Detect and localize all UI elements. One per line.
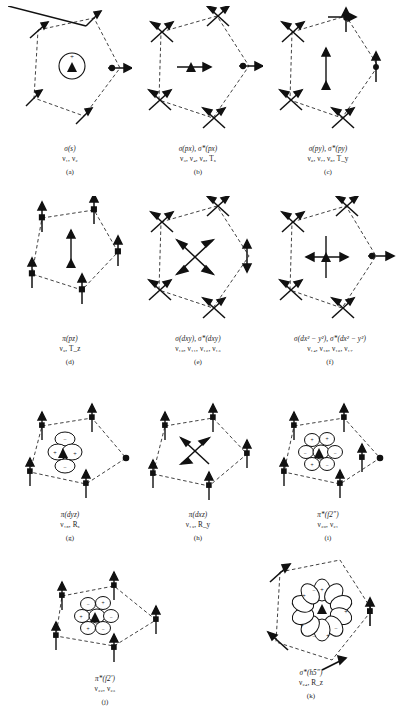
panel-f-letter: (f) xyxy=(264,357,396,367)
svg-text:−: − xyxy=(86,601,89,607)
panel-a-caption: σ(s) ν₁, ν₂ (a) xyxy=(8,144,132,177)
panel-k-modes-label: ν₂₄, R_z xyxy=(236,678,386,688)
panel-h: π(dxz) ν₁₉, R_y (h) xyxy=(133,400,263,560)
panel-g-letter: (g) xyxy=(8,533,132,543)
panel-i-letter: (i) xyxy=(264,533,392,543)
panel-b-modes-label: ν₃, ν₄, ν₅, Tₓ xyxy=(133,154,263,164)
panel-j-modes-label: ν₂₂, ν₂₃ xyxy=(30,684,180,694)
panel-d-diagram xyxy=(8,196,132,328)
panel-a-diagram: + xyxy=(8,6,132,138)
panel-b-orbital-label: σ(px), σ*(px) xyxy=(133,144,263,154)
svg-text:+: + xyxy=(310,437,313,443)
panel-a-modes-label: ν₁, ν₂ xyxy=(8,154,132,164)
panel-i-caption: π*(f2″) ν₂₀, ν₂₁ (i) xyxy=(264,510,392,543)
panel-k-diagram: + − + − + − + − + − xyxy=(236,554,386,678)
svg-text:+: + xyxy=(86,626,89,632)
panel-a: + σ(s) ν₁, ν₂ (a) xyxy=(8,6,132,186)
panel-b-letter: (b) xyxy=(133,167,263,177)
panel-i: ++ −− +− π*(f2″) ν₂₀, ν₂₁ (i) xyxy=(264,400,392,560)
panel-d: π(pz) ν₉, T_z (d) xyxy=(8,196,132,376)
panel-c-diagram xyxy=(264,6,392,138)
panel-g-modes-label: ν₁₈, Rₓ xyxy=(8,520,132,530)
panel-f: σ(dx² − y²), σ*(dx² − y²) ν₁₄, ν₁₅, ν₁₆,… xyxy=(264,196,396,376)
panel-j-orbital-label: π*(f2′) xyxy=(30,674,180,684)
panel-e-diagram xyxy=(133,196,263,328)
svg-text:+: + xyxy=(79,614,82,620)
panel-d-caption: π(pz) ν₉, T_z (d) xyxy=(8,334,132,367)
svg-text:+: + xyxy=(70,53,74,61)
panel-i-modes-label: ν₂₀, ν₂₁ xyxy=(264,520,392,530)
panel-f-diagram xyxy=(264,196,396,328)
panel-d-letter: (d) xyxy=(8,357,132,367)
panel-d-orbital-label: π(pz) xyxy=(8,334,132,344)
panel-g: − − + + π(dyz) ν₁₈, Rₓ (g) xyxy=(8,400,132,560)
panel-f-caption: σ(dx² − y²), σ*(dx² − y²) ν₁₄, ν₁₅, ν₁₆,… xyxy=(264,334,396,367)
panel-e: σ(dxy), σ*(dxy) ν₁₀, ν₁₁, ν₁₂, ν₁₃ (e) xyxy=(133,196,263,376)
panel-g-orbital-label: π(dyz) xyxy=(8,510,132,520)
panel-a-letter: (a) xyxy=(8,167,132,177)
panel-h-diagram xyxy=(133,400,263,504)
panel-f-modes-label: ν₁₄, ν₁₅, ν₁₆, ν₁₇ xyxy=(264,344,396,354)
svg-text:−: − xyxy=(109,614,112,620)
panel-c-orbital-label: σ(py), σ*(py) xyxy=(264,144,392,154)
panel-e-orbital-label: σ(dxy), σ*(dxy) xyxy=(133,334,263,344)
panel-i-diagram: ++ −− +− xyxy=(264,400,392,504)
panel-j-diagram: −+ +− +− xyxy=(30,570,180,670)
panel-c-modes-label: ν₆, ν₇, ν₈, T_y xyxy=(264,154,392,164)
panel-c-caption: σ(py), σ*(py) ν₆, ν₇, ν₈, T_y (c) xyxy=(264,144,392,177)
panel-c-letter: (c) xyxy=(264,167,392,177)
panel-h-caption: π(dxz) ν₁₉, R_y (h) xyxy=(133,510,263,543)
svg-text:+: + xyxy=(325,436,328,442)
panel-j-letter: (j) xyxy=(30,697,180,707)
svg-text:+: + xyxy=(101,600,104,606)
panel-b-caption: σ(px), σ*(px) ν₃, ν₄, ν₅, Tₓ (b) xyxy=(133,144,263,177)
panel-i-orbital-label: π*(f2″) xyxy=(264,510,392,520)
panel-k: + − + − + − + − + − σ*(h5″) ν₂₄, R_z (k) xyxy=(236,554,386,724)
panel-h-letter: (h) xyxy=(133,533,263,543)
panel-k-caption: σ*(h5″) ν₂₄, R_z (k) xyxy=(236,668,386,701)
svg-text:−: − xyxy=(303,450,306,456)
panel-k-letter: (k) xyxy=(236,691,386,701)
panel-c: σ(py), σ*(py) ν₆, ν₇, ν₈, T_y (c) xyxy=(264,6,392,186)
panel-g-caption: π(dyz) ν₁₈, Rₓ (g) xyxy=(8,510,132,543)
panel-e-caption: σ(dxy), σ*(dxy) ν₁₀, ν₁₁, ν₁₂, ν₁₃ (e) xyxy=(133,334,263,367)
panel-j: −+ +− +− π*(f2′) ν₂₂, ν₂₃ (j) xyxy=(30,570,180,720)
panel-k-orbital-label: σ*(h5″) xyxy=(236,668,386,678)
figure-sheet: + σ(s) ν₁, ν₂ (a) xyxy=(0,0,398,727)
svg-text:−: − xyxy=(101,626,104,632)
panel-d-modes-label: ν₉, T_z xyxy=(8,344,132,354)
panel-e-letter: (e) xyxy=(133,357,263,367)
panel-f-orbital-label: σ(dx² − y²), σ*(dx² − y²) xyxy=(264,334,396,344)
panel-b-diagram xyxy=(133,6,263,138)
panel-e-modes-label: ν₁₀, ν₁₁, ν₁₂, ν₁₃ xyxy=(133,344,263,354)
panel-j-caption: π*(f2′) ν₂₂, ν₂₃ (j) xyxy=(30,674,180,707)
panel-g-diagram: − − + + xyxy=(8,400,132,504)
panel-a-orbital-label: σ(s) xyxy=(8,144,132,154)
panel-h-modes-label: ν₁₉, R_y xyxy=(133,520,263,530)
panel-b: σ(px), σ*(px) ν₃, ν₄, ν₅, Tₓ (b) xyxy=(133,6,263,186)
svg-text:+: + xyxy=(310,462,313,468)
svg-text:−: − xyxy=(325,462,328,468)
svg-text:−: − xyxy=(333,450,336,456)
panel-h-orbital-label: π(dxz) xyxy=(133,510,263,520)
